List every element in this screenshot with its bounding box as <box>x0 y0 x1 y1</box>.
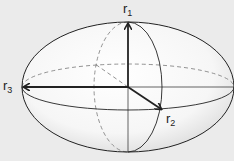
ellipsoid-svg <box>0 0 234 161</box>
label-r3-sub: 3 <box>7 85 12 95</box>
label-r1: r1 <box>123 2 132 18</box>
label-r2-sub: 2 <box>170 118 175 128</box>
label-r3: r3 <box>3 79 12 95</box>
label-r1-sub: 1 <box>127 8 132 18</box>
label-r2: r2 <box>166 112 175 128</box>
ellipsoid-diagram: r1 r2 r3 <box>0 0 234 161</box>
